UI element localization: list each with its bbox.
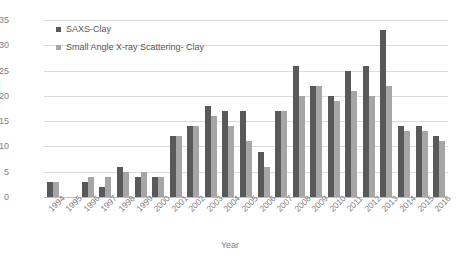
bar [334, 101, 340, 197]
legend-item-small-angle-xray-scattering-clay: Small Angle X-ray Scattering- Clay [56, 42, 204, 52]
y-tick-label: 0 [0, 192, 9, 202]
bar [439, 141, 445, 197]
x-tick-cell: 1999 [132, 198, 150, 244]
y-tick-label: 5 [0, 167, 9, 177]
legend-swatch-icon [56, 45, 61, 50]
bar-chart: Articles 35302520151050 1994199519961997… [0, 0, 460, 263]
bar-group [430, 20, 448, 197]
y-tick-label: 20 [0, 91, 9, 101]
x-tick-cell: 2016 [430, 198, 448, 244]
bar-group [307, 20, 325, 197]
x-axis-ticks: 1994199519961997199819992000200120022003… [44, 198, 448, 244]
x-tick-cell: 1994 [44, 198, 62, 244]
x-tick-cell: 1998 [114, 198, 132, 244]
x-tick-cell: 2007 [272, 198, 290, 244]
y-tick-label: 35 [0, 15, 9, 25]
bar-group [202, 20, 220, 197]
bar [228, 126, 234, 197]
bar [351, 91, 357, 197]
bar [369, 96, 375, 197]
x-tick-cell: 2013 [378, 198, 396, 244]
legend-label: Small Angle X-ray Scattering- Clay [66, 42, 204, 52]
x-tick-cell: 2015 [413, 198, 431, 244]
y-tick-label: 15 [0, 116, 9, 126]
x-tick-cell: 1996 [79, 198, 97, 244]
legend-item-saxs-clay: SAXS-Clay [56, 24, 204, 34]
x-tick-cell: 1995 [62, 198, 80, 244]
bar [404, 131, 410, 197]
x-tick-cell: 2012 [360, 198, 378, 244]
x-tick-cell: 2008 [290, 198, 308, 244]
x-tick-cell: 2002 [185, 198, 203, 244]
y-tick-label: 10 [0, 141, 9, 151]
bar-group [413, 20, 431, 197]
x-tick-cell: 2005 [237, 198, 255, 244]
legend-label: SAXS-Clay [66, 24, 111, 34]
bar [211, 116, 217, 197]
bar-group [220, 20, 238, 197]
bar [176, 136, 182, 197]
x-tick-cell: 2009 [307, 198, 325, 244]
x-tick-cell: 1997 [97, 198, 115, 244]
x-tick-cell: 2011 [343, 198, 361, 244]
bar-group [237, 20, 255, 197]
x-axis-title: Year [0, 240, 460, 250]
bar [316, 86, 322, 197]
bar [281, 111, 287, 197]
bar [264, 167, 270, 197]
x-tick-cell: 2000 [149, 198, 167, 244]
bar-group [343, 20, 361, 197]
x-tick-cell: 2001 [167, 198, 185, 244]
bar-group [290, 20, 308, 197]
bar-group [255, 20, 273, 197]
legend-swatch-icon [56, 27, 61, 32]
y-tick-label: 30 [0, 40, 9, 50]
x-tick-cell: 2006 [255, 198, 273, 244]
y-tick-label: 25 [0, 66, 9, 76]
chart-legend: SAXS-Clay Small Angle X-ray Scattering- … [56, 24, 204, 60]
x-tick-cell: 2004 [220, 198, 238, 244]
bar-group [272, 20, 290, 197]
bar-group [378, 20, 396, 197]
bar [193, 126, 199, 197]
bar-group [325, 20, 343, 197]
bar-group [360, 20, 378, 197]
bar [141, 172, 147, 197]
bar [299, 96, 305, 197]
bar [246, 141, 252, 197]
bar [422, 131, 428, 197]
x-tick-cell: 2010 [325, 198, 343, 244]
x-tick-cell: 2003 [202, 198, 220, 244]
bar [386, 86, 392, 197]
x-tick-cell: 2014 [395, 198, 413, 244]
bar-group [395, 20, 413, 197]
